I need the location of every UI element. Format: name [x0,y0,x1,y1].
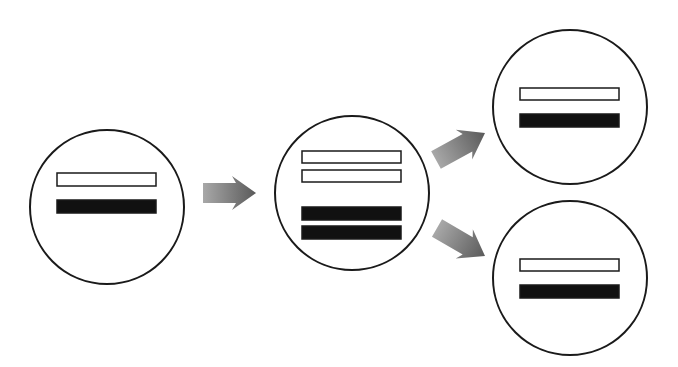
cells [30,30,647,355]
dark-strand-bar [520,285,619,298]
dark-strand-bar [302,226,401,239]
cell-division-diagram [0,0,678,367]
arrow-icon [428,213,493,270]
light-strand-bar [57,173,156,186]
light-strand-bar [520,259,619,271]
daughter-cell-bottom [493,201,647,355]
cell-outline [493,201,647,355]
replicated-cell [275,116,429,270]
light-strand-bar [302,170,401,182]
dark-strand-bar [302,207,401,220]
cell-outline [493,30,647,184]
cell-outline [275,116,429,270]
dark-strand-bar [520,114,619,127]
light-strand-bar [302,151,401,163]
arrows [203,118,494,271]
arrow-icon [428,118,493,175]
dark-strand-bar [57,200,156,213]
light-strand-bar [520,88,619,100]
arrow-icon [203,176,256,210]
daughter-cell-top [493,30,647,184]
parent-cell [30,130,184,284]
